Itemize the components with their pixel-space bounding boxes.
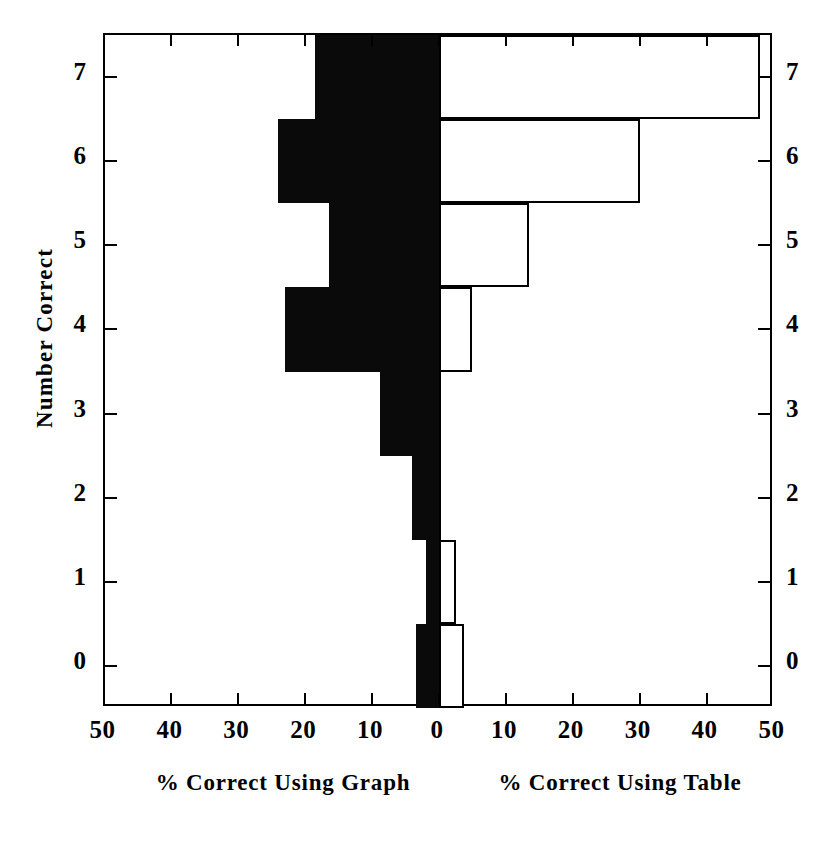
- bar-graph-series: [380, 372, 439, 456]
- bar-graph-series: [285, 287, 439, 371]
- y-axis-tick-label-right: 0: [786, 647, 820, 675]
- bar-row: [105, 287, 774, 371]
- bar-graph-series: [329, 203, 439, 287]
- y-axis-tick-label-left: 6: [52, 142, 86, 170]
- bar-graph-series: [426, 540, 439, 624]
- y-axis-tick: [105, 413, 117, 415]
- x-axis-tick: [706, 35, 708, 46]
- x-axis-tick-label: 40: [139, 716, 199, 744]
- y-axis-tick-label-right: 5: [786, 226, 820, 254]
- x-axis-tick: [505, 35, 507, 46]
- x-axis-tick-label: 40: [675, 716, 735, 744]
- x-axis-tick: [237, 35, 239, 46]
- y-axis-tick: [105, 76, 117, 78]
- x-axis-tick: [505, 693, 507, 704]
- y-axis-tick: [105, 497, 117, 499]
- x-axis-tick: [706, 693, 708, 704]
- x-axis-tick: [371, 693, 373, 704]
- y-axis-tick-label-right: 1: [786, 563, 820, 591]
- x-axis-tick-label: 10: [474, 716, 534, 744]
- bar-table-series: [439, 287, 472, 371]
- bar-graph-series: [278, 119, 439, 203]
- x-axis-tick: [304, 35, 306, 46]
- bar-row: [105, 456, 774, 540]
- bar-row: [105, 540, 774, 624]
- bar-graph-series: [315, 35, 439, 119]
- x-axis-tick: [170, 35, 172, 46]
- x-axis-tick: [438, 35, 440, 46]
- bar-graph-series: [412, 456, 439, 540]
- y-axis-title: Number Correct: [32, 188, 58, 488]
- x-axis-tick-label: 30: [608, 716, 668, 744]
- x-axis-tick: [170, 693, 172, 704]
- x-axis-tick: [237, 693, 239, 704]
- y-axis-tick: [758, 244, 770, 246]
- x-axis-tick: [304, 693, 306, 704]
- x-axis-tick: [371, 35, 373, 46]
- x-axis-tick: [438, 693, 440, 704]
- y-axis-tick: [758, 413, 770, 415]
- y-axis-tick-label-left: 7: [52, 58, 86, 86]
- x-axis-tick-label: 0: [407, 716, 467, 744]
- bar-table-series: [439, 203, 529, 287]
- y-axis-tick: [758, 160, 770, 162]
- x-axis-tick-label: 50: [742, 716, 802, 744]
- y-axis-tick: [758, 76, 770, 78]
- plot-area: [103, 33, 772, 706]
- y-axis-tick-label-right: 7: [786, 58, 820, 86]
- y-axis-tick-label-right: 6: [786, 142, 820, 170]
- y-axis-tick: [105, 665, 117, 667]
- x-axis-tick: [639, 693, 641, 704]
- x-axis-tick-label: 20: [541, 716, 601, 744]
- chart-figure: 504030201001020304050 01234567 01234567 …: [0, 0, 837, 842]
- bar-row: [105, 203, 774, 287]
- x-axis-title-left: % Correct Using Graph: [118, 770, 448, 796]
- y-axis-tick: [758, 497, 770, 499]
- y-axis-tick: [105, 244, 117, 246]
- bar-table-series: [439, 119, 640, 203]
- bar-table-series: [439, 35, 760, 119]
- y-axis-tick-label-right: 2: [786, 479, 820, 507]
- x-axis-tick: [639, 35, 641, 46]
- y-axis-tick: [758, 581, 770, 583]
- bar-row: [105, 372, 774, 456]
- y-axis-tick-label-right: 4: [786, 310, 820, 338]
- x-axis-tick: [572, 35, 574, 46]
- x-axis-tick-label: 30: [206, 716, 266, 744]
- x-axis-tick-label: 20: [273, 716, 333, 744]
- bar-row: [105, 119, 774, 203]
- x-axis-tick-label: 50: [73, 716, 133, 744]
- y-axis-tick: [758, 665, 770, 667]
- x-axis-tick: [572, 693, 574, 704]
- bar-table-series: [439, 540, 456, 624]
- y-axis-tick-label-right: 3: [786, 395, 820, 423]
- y-axis-tick: [105, 328, 117, 330]
- y-axis-tick: [105, 581, 117, 583]
- x-axis-tick-label: 10: [340, 716, 400, 744]
- bar-table-series: [439, 624, 464, 708]
- bar-row: [105, 35, 774, 119]
- bar-graph-series: [416, 624, 439, 708]
- y-axis-tick: [105, 160, 117, 162]
- y-axis-tick-label-left: 0: [52, 647, 86, 675]
- x-axis-title-right: % Correct Using Table: [455, 770, 785, 796]
- y-axis-tick: [758, 328, 770, 330]
- y-axis-tick-label-left: 1: [52, 563, 86, 591]
